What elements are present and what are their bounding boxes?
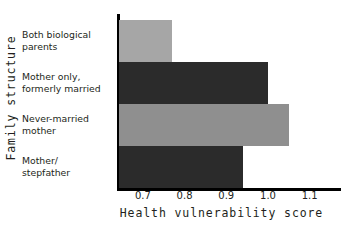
- y-axis-tick-label-line: stepfather: [22, 167, 114, 179]
- bar-both-biological-parents: [119, 20, 172, 62]
- y-axis-tick-label-line: parents: [22, 41, 114, 53]
- y-axis-title-text: Family structure: [4, 35, 18, 160]
- bar-chart: Family structure Both biological parents…: [0, 0, 343, 228]
- y-axis-tick-labels: Both biological parents Mother only, for…: [24, 20, 116, 188]
- bar-mother-stepfather: [119, 146, 243, 188]
- y-axis-tick-label-line: Never-married: [22, 113, 114, 125]
- bar-never-married-mother: [119, 104, 289, 146]
- y-axis-tick-label-line: Mother/: [22, 155, 114, 167]
- y-axis-tick-label-line: formerly married: [22, 83, 114, 95]
- x-axis-tick-labels: 0.7 0.8 0.9 1.0 1.1: [117, 190, 343, 205]
- y-axis-tick-label-line: Mother only,: [22, 71, 114, 83]
- x-axis-tick-label: 1.1: [293, 190, 327, 201]
- y-axis-tick-label-line: Both biological: [22, 29, 114, 41]
- x-axis-tick-label: 1.0: [251, 190, 285, 201]
- y-axis-tick-label: Mother/ stepfather: [22, 146, 114, 188]
- x-axis-tick-label: 0.8: [168, 190, 202, 201]
- y-axis-tick-label-line: mother: [22, 125, 114, 137]
- x-axis-tick-label: 0.7: [126, 190, 160, 201]
- y-axis-title: Family structure: [0, 0, 22, 195]
- bar-mother-only-formerly-married: [119, 62, 268, 104]
- y-axis-tick-label: Both biological parents: [22, 20, 114, 62]
- y-axis-tick-label: Mother only, formerly married: [22, 62, 114, 104]
- plot-area: [117, 20, 341, 188]
- x-axis-title: Health vulnerability score: [100, 206, 343, 220]
- x-axis-tick-label: 0.9: [209, 190, 243, 201]
- y-axis-tick-label: Never-married mother: [22, 104, 114, 146]
